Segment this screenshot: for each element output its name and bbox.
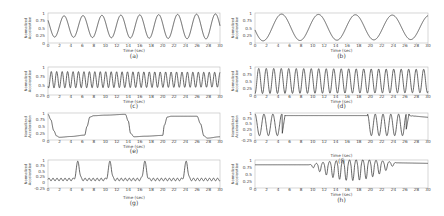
x-tick-label: 8: [93, 94, 96, 99]
x-tick-label: 24: [391, 187, 397, 192]
x-tick-label: 16: [137, 187, 143, 192]
x-tick-label: 14: [333, 139, 339, 144]
x-tick-label: 18: [356, 94, 362, 99]
y-tick-label: 1: [42, 158, 45, 163]
x-tick-label: 4: [277, 187, 280, 192]
x-tick-label: 26: [194, 43, 200, 48]
x-tick-label: 20: [160, 187, 166, 192]
x-tick-label: 12: [114, 94, 120, 99]
x-tick-label: 10: [310, 187, 316, 192]
x-tick-label: 10: [310, 139, 316, 144]
y-tick-label: 0.5: [38, 124, 45, 129]
y-tick-label: 0: [249, 186, 252, 191]
x-tick-label: 28: [414, 94, 420, 99]
x-tick-label: 30: [217, 43, 223, 48]
x-tick-label: 12: [114, 139, 120, 144]
y-tick-label: 1: [249, 65, 252, 70]
x-tick-label: 4: [70, 94, 73, 99]
signal-line: [48, 14, 220, 39]
y-tick-label: 0.75: [36, 18, 46, 23]
x-tick-label: 24: [183, 94, 189, 99]
x-tick-label: 4: [70, 187, 73, 192]
y-tick-label: 0.25: [243, 127, 253, 132]
y-tick-label: 1: [249, 111, 252, 116]
y-tick-label: 0.5: [38, 83, 45, 88]
x-tick-label: 6: [288, 187, 291, 192]
x-tick-label: 30: [425, 139, 431, 144]
x-tick-label: 26: [402, 94, 408, 99]
x-tick-label: 2: [58, 94, 61, 99]
x-tick-label: 26: [402, 43, 408, 48]
subplot-a: 00.250.50.751NormalizedAcceleration02468…: [24, 11, 223, 60]
x-tick-label: 2: [265, 94, 268, 99]
subplot-caption: (e): [130, 147, 138, 154]
y-tick-label: 0.25: [36, 33, 46, 38]
x-tick-label: 0: [47, 94, 50, 99]
x-tick-label: 24: [183, 187, 189, 192]
subplot-caption: (g): [130, 199, 139, 207]
y-tick-label: -0.25: [34, 186, 45, 191]
y-tick-label: 0.75: [36, 74, 46, 79]
y-tick-label: 0.75: [243, 18, 253, 23]
x-tick-label: 26: [194, 94, 200, 99]
x-tick-label: 24: [391, 94, 397, 99]
x-tick-label: 22: [171, 43, 177, 48]
x-tick-label: 10: [103, 187, 109, 192]
x-tick-label: 10: [103, 43, 109, 48]
x-tick-label: 28: [414, 139, 420, 144]
x-tick-label: 4: [277, 43, 280, 48]
x-tick-label: 18: [149, 187, 155, 192]
subplot-h: 00.250.50.751NormalizedAcceleration02468…: [231, 158, 431, 204]
x-tick-label: 10: [103, 94, 109, 99]
x-tick-label: 24: [391, 139, 397, 144]
x-tick-label: 10: [103, 139, 109, 144]
x-tick-label: 30: [425, 43, 431, 48]
x-tick-label: 2: [265, 139, 268, 144]
y-tick-label: 0.5: [245, 172, 252, 177]
x-tick-label: 22: [379, 94, 385, 99]
subplot-e: 00.250.50.751NormalizedAcceleration02468…: [24, 111, 223, 155]
x-tick-label: 28: [206, 139, 212, 144]
y-tick-label: 0: [42, 138, 45, 143]
x-tick-label: 28: [206, 94, 212, 99]
subplot-caption: (c): [130, 102, 138, 109]
x-tick-label: 12: [322, 139, 328, 144]
subplot-f: -0.2500.250.50.751NormalizedAcceleration…: [231, 111, 431, 165]
x-tick-label: 22: [379, 43, 385, 48]
signal-line: [48, 72, 220, 88]
y-tick-label: 0.5: [245, 79, 252, 84]
y-tick-label: 1: [249, 158, 252, 163]
x-tick-label: 18: [149, 94, 155, 99]
x-tick-label: 26: [194, 187, 200, 192]
x-tick-label: 22: [171, 139, 177, 144]
signal-line: [255, 114, 428, 136]
x-tick-label: 28: [206, 43, 212, 48]
x-tick-label: 18: [356, 43, 362, 48]
y-tick-label: 0.75: [36, 163, 46, 168]
x-tick-label: 24: [391, 43, 397, 48]
x-tick-label: 26: [402, 187, 408, 192]
x-tick-label: 18: [149, 139, 155, 144]
y-tick-label: 1: [249, 11, 252, 16]
y-tick-label: 1: [42, 65, 45, 70]
y-axis-label: NormalizedAcceleration: [24, 163, 32, 185]
x-tick-label: 8: [93, 43, 96, 48]
x-tick-label: 28: [414, 187, 420, 192]
x-tick-label: 4: [70, 139, 73, 144]
signal-line: [255, 68, 428, 93]
y-tick-label: 0.5: [245, 121, 252, 126]
x-tick-label: 22: [379, 187, 385, 192]
plot-frame: [48, 113, 220, 140]
subplot-caption: (d): [337, 102, 346, 109]
x-tick-label: 30: [217, 94, 223, 99]
subplot-b: 00.250.50.751NormalizedAcceleration02468…: [231, 11, 431, 60]
x-tick-label: 2: [265, 43, 268, 48]
x-tick-label: 4: [277, 139, 280, 144]
y-tick-label: 0.75: [243, 165, 253, 170]
y-axis-label: NormalizedAcceleration: [24, 70, 32, 92]
y-tick-label: 0.25: [243, 86, 253, 91]
x-tick-label: 28: [414, 43, 420, 48]
signal-line: [48, 161, 220, 181]
signal-line: [48, 114, 220, 138]
y-tick-label: 0: [249, 93, 252, 98]
